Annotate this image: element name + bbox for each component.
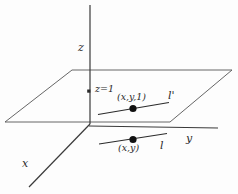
- x-axis-label: x: [22, 158, 28, 169]
- z-axis-label: z: [78, 42, 84, 53]
- line-l-prime-label: l': [168, 90, 175, 101]
- point-xy-label: (x,y): [118, 143, 139, 153]
- line-l-label: l: [160, 140, 164, 151]
- y-axis-label: y: [186, 133, 192, 144]
- figure-root: z y x z=1 (x,y,1) (x,y) l' l: [0, 0, 238, 194]
- x-axis-line: [29, 124, 90, 187]
- point-xy1-dot: [129, 105, 136, 112]
- point-xy1-label: (x,y,1): [117, 92, 146, 102]
- plane-height-label: z=1: [95, 84, 114, 94]
- y-axis-line: [89, 126, 218, 128]
- z-one-tick-icon: [87, 90, 90, 93]
